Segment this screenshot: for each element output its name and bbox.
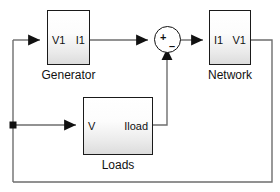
block-loads-label: Loads: [83, 158, 153, 172]
network-output-port-label: V1: [233, 35, 246, 46]
summing-junction-minus-sign: –: [169, 42, 175, 51]
block-diagram-canvas: V1 I1 Generator + – I1 V1 Network V Iloa…: [0, 0, 280, 192]
block-generator[interactable]: V1 I1: [47, 10, 90, 65]
generator-input-port-label: V1: [52, 35, 65, 46]
block-network[interactable]: I1 V1: [209, 10, 251, 65]
summing-junction-plus-sign: +: [160, 33, 166, 42]
wire-loads-to-sum: [153, 60, 167, 125]
wire-junction-dot: [10, 122, 17, 129]
generator-output-port-label: I1: [76, 35, 85, 46]
summing-junction[interactable]: [154, 26, 181, 53]
block-loads[interactable]: V Iload: [83, 97, 153, 155]
block-network-label: Network: [186, 68, 274, 82]
loads-output-port-label: Iload: [124, 121, 148, 132]
network-input-port-label: I1: [214, 35, 223, 46]
loads-input-port-label: V: [88, 121, 95, 132]
block-generator-label: Generator: [20, 68, 117, 82]
